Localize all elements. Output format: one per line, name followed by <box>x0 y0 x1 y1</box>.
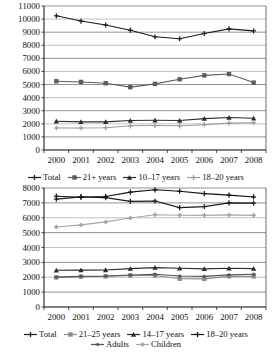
series-21-years <box>54 72 256 89</box>
legend-item-10-17-years[interactable]: 10–17 years <box>123 173 180 182</box>
legend-item-label: Adults <box>106 340 129 349</box>
legend-marker-icon <box>123 173 136 182</box>
y-axis-tick-label: 2000 <box>22 272 40 282</box>
y-axis-tick-label: 7000 <box>22 53 40 63</box>
legend-item-total[interactable]: Total <box>28 173 61 182</box>
x-axis-tick-label: 2003 <box>122 155 140 165</box>
x-axis-tick-label: 2000 <box>48 312 66 322</box>
x-axis-tick-label: 2008 <box>245 155 263 165</box>
x-axis-tick-label: 2001 <box>72 155 90 165</box>
figure-page: 0100020003000400050006000700080009000100… <box>0 0 272 363</box>
legend-marker-icon <box>64 330 77 339</box>
y-axis-tick-label: 1000 <box>22 287 40 297</box>
y-axis-tick-label: 3000 <box>22 257 40 267</box>
series-14-17-years <box>54 265 257 272</box>
chart-1-plot-area: 0100020003000400050006000700080009000100… <box>0 0 272 172</box>
legend-item-label: 21+ years <box>83 173 117 182</box>
legend-item-label: 18–20 years <box>202 173 244 182</box>
x-axis-tick-label: 2005 <box>171 312 189 322</box>
legend-item-18-20-years[interactable]: 18–20 years <box>191 330 248 339</box>
y-axis-tick-label: 4000 <box>22 243 40 253</box>
legend-item-label: 14–17 years <box>142 330 184 339</box>
legend-marker-icon <box>191 330 204 339</box>
x-axis-tick-label: 2004 <box>146 312 164 322</box>
series-adults <box>54 273 255 279</box>
series-18-20-years <box>54 187 256 200</box>
line-chart-1: 0100020003000400050006000700080009000100… <box>0 0 272 172</box>
y-axis-tick-label: 4000 <box>22 93 40 103</box>
legend-item-label: Children <box>151 340 181 349</box>
legend-marker-icon <box>136 340 149 349</box>
chart-2-block: 0100020003000400050006000700080002000200… <box>0 182 272 349</box>
chart-1-block: 0100020003000400050006000700080009000100… <box>0 0 272 182</box>
y-axis-tick-label: 7000 <box>22 198 40 208</box>
y-axis-tick-label: 9000 <box>22 27 40 37</box>
legend-marker-icon <box>91 340 104 349</box>
y-axis-tick-label: 6000 <box>22 66 40 76</box>
legend-item-label: 21–25 years <box>79 330 121 339</box>
x-axis-tick-label: 2000 <box>48 155 66 165</box>
y-axis-tick-label: 11000 <box>18 1 40 11</box>
x-axis-tick-label: 2002 <box>97 155 115 165</box>
line-chart-2: 0100020003000400050006000700080002000200… <box>0 182 272 329</box>
legend-marker-icon <box>127 330 140 339</box>
series-10-17-years <box>54 115 257 124</box>
x-axis-tick-label: 2008 <box>245 312 263 322</box>
legend-item-label: Total <box>43 173 61 182</box>
y-axis-tick-label: 5000 <box>22 228 40 238</box>
chart-1-legend: Total21+ years10–17 years18–20 years <box>0 172 272 182</box>
y-axis-tick-label: 10000 <box>18 14 41 24</box>
series-children <box>54 212 256 229</box>
x-axis-tick-label: 2005 <box>171 155 189 165</box>
y-axis-tick-label: 5000 <box>22 80 40 90</box>
legend-marker-icon <box>187 173 200 182</box>
y-axis-tick-label: 6000 <box>22 213 40 223</box>
chart-2-legend: Total21–25 years14–17 years18–20 yearsAd… <box>0 329 272 349</box>
y-axis-tick-label: 8000 <box>22 40 40 50</box>
x-axis-tick-label: 2002 <box>97 312 115 322</box>
legend-item-total[interactable]: Total <box>24 330 57 339</box>
legend-item-14-17-years[interactable]: 14–17 years <box>127 330 184 339</box>
y-axis-tick-label: 0 <box>36 302 41 312</box>
x-axis-tick-label: 2003 <box>122 312 140 322</box>
legend-marker-icon <box>24 330 37 339</box>
series-total <box>54 13 256 41</box>
y-axis-tick-label: 0 <box>36 145 41 155</box>
legend-item-label: 10–17 years <box>138 173 180 182</box>
x-axis-tick-label: 2006 <box>196 312 214 322</box>
y-axis-tick-label: 2000 <box>22 119 40 129</box>
legend-item-21-years[interactable]: 21+ years <box>68 173 117 182</box>
x-axis-tick-label: 2006 <box>196 155 214 165</box>
legend-marker-icon <box>68 173 81 182</box>
y-axis-tick-label: 3000 <box>22 106 40 116</box>
x-axis-tick-label: 2001 <box>72 312 90 322</box>
legend-item-21-25-years[interactable]: 21–25 years <box>64 330 121 339</box>
legend-item-children[interactable]: Children <box>136 340 181 349</box>
legend-item-label: Total <box>39 330 57 339</box>
legend-item-18-20-years[interactable]: 18–20 years <box>187 173 244 182</box>
legend-item-adults[interactable]: Adults <box>91 340 129 349</box>
y-axis-tick-label: 8000 <box>22 183 40 193</box>
legend-item-label: 18–20 years <box>206 330 248 339</box>
x-axis-tick-label: 2004 <box>146 155 164 165</box>
y-axis-tick-label: 1000 <box>22 132 40 142</box>
chart-2-plot-area: 0100020003000400050006000700080002000200… <box>0 182 272 329</box>
x-axis-tick-label: 2007 <box>220 312 238 322</box>
legend-marker-icon <box>28 173 41 182</box>
x-axis-tick-label: 2007 <box>220 155 238 165</box>
